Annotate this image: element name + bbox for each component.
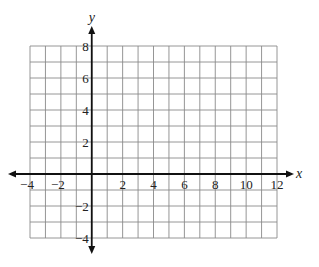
x-tick-label: −4 [20,177,34,192]
x-axis-label: x [295,166,303,181]
x-arrow-left-icon [8,171,16,178]
x-tick-label: 8 [212,177,219,192]
axes [8,26,294,254]
x-tick-label: −2 [51,177,65,192]
coordinate-plane: −4−2246810128642−2−4 x y [0,0,319,267]
grid-lines [30,46,277,238]
y-arrow-down-icon [88,246,95,254]
x-tick-label: 12 [271,177,284,192]
y-tick-label: 8 [82,39,89,54]
x-tick-label: 10 [240,177,253,192]
y-tick-label: 2 [82,135,89,150]
x-tick-label: 2 [119,177,126,192]
y-tick-label: 4 [82,103,89,118]
y-tick-label: −4 [75,231,89,246]
x-tick-label: 6 [181,177,188,192]
y-arrow-up-icon [88,26,95,34]
y-axis-label: y [87,10,96,25]
y-tick-label: −2 [75,199,89,214]
x-tick-label: 4 [150,177,157,192]
y-tick-label: 6 [82,71,89,86]
x-arrow-right-icon [286,171,294,178]
